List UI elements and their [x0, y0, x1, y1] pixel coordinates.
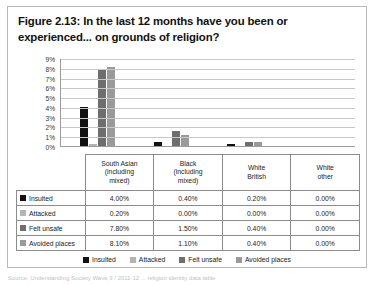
- table-cell: 0.20%: [85, 206, 154, 221]
- bar: [245, 142, 253, 146]
- plot-area: [60, 59, 355, 147]
- page-title: Figure 2.13: In the last 12 months have …: [18, 14, 353, 45]
- legend-label: Avoided places: [245, 256, 291, 263]
- legend-item: Insulted: [83, 256, 116, 263]
- series-swatch-icon: [20, 210, 26, 216]
- legend-swatch-icon: [236, 257, 242, 263]
- bar: [254, 142, 262, 146]
- y-axis-tick-label: 4%: [45, 104, 55, 111]
- table-row: Avoided places8.10%1.10%0.40%0.00%: [17, 236, 360, 251]
- figure-container: Figure 2.13: In the last 12 months have …: [7, 6, 367, 268]
- gridline: [61, 79, 355, 80]
- legend-label: Felt unsafe: [188, 256, 222, 263]
- gridline: [61, 118, 355, 119]
- series-swatch-icon: [20, 240, 26, 246]
- gridline: [61, 59, 355, 60]
- y-axis-tick-label: 1%: [45, 134, 55, 141]
- legend-item: Felt unsafe: [179, 256, 222, 263]
- bar: [227, 144, 235, 146]
- table-cell: 1.50%: [154, 221, 223, 236]
- table-cell: 0.20%: [222, 191, 291, 206]
- table-cell: 8.10%: [85, 236, 154, 251]
- series-swatch-icon: [20, 195, 26, 201]
- table-column-header: Black(includingmixed): [154, 155, 223, 191]
- y-axis-tick-label: 5%: [45, 95, 55, 102]
- gridline: [61, 88, 355, 89]
- data-table: South Asian(includingmixed)Black(includi…: [16, 154, 360, 251]
- table-column-header: South Asian(includingmixed): [85, 155, 154, 191]
- y-axis-tick-label: 3%: [45, 114, 55, 121]
- table-cell: 0.00%: [291, 221, 360, 236]
- table-row-label: Avoided places: [17, 236, 86, 251]
- table-cell: 1.10%: [154, 236, 223, 251]
- legend-label: Insulted: [92, 256, 116, 263]
- table-header-row: South Asian(includingmixed)Black(includi…: [17, 155, 360, 191]
- gridline: [61, 127, 355, 128]
- gridline: [61, 98, 355, 99]
- table-body: Insulted4.00%0.40%0.20%0.00%Attacked0.20…: [17, 191, 360, 251]
- table-row: Insulted4.00%0.40%0.20%0.00%: [17, 191, 360, 206]
- table-row-label: Insulted: [17, 191, 86, 206]
- bar-group: [61, 59, 135, 146]
- gridline: [61, 69, 355, 70]
- gridline: [61, 108, 355, 109]
- table-cell: 0.00%: [291, 236, 360, 251]
- bar: [89, 144, 97, 146]
- legend-swatch-icon: [179, 257, 185, 263]
- source-caption: Source: Understanding Society Wave 3 / 2…: [8, 274, 368, 282]
- legend-item: Avoided places: [236, 256, 291, 263]
- legend-swatch-icon: [130, 257, 136, 263]
- legend-item: Attacked: [130, 256, 165, 263]
- table-corner-cell: [17, 155, 86, 191]
- y-axis-tick-label: 8%: [45, 65, 55, 72]
- table-row: Attacked0.20%0.00%0.00%0.00%: [17, 206, 360, 221]
- table-cell: 4.00%: [85, 191, 154, 206]
- legend-swatch-icon: [83, 257, 89, 263]
- bar: [154, 142, 162, 146]
- chart-legend: InsultedAttackedFelt unsafeAvoided place…: [8, 256, 366, 263]
- legend-label: Attacked: [139, 256, 165, 263]
- bar-chart: 0%1%2%3%4%5%6%7%8%9%: [30, 59, 355, 159]
- bar: [172, 131, 180, 146]
- table-row-label: Attacked: [17, 206, 86, 221]
- bar-group: [208, 59, 282, 146]
- table-cell: 0.40%: [222, 236, 291, 251]
- y-axis-tick-label: 2%: [45, 124, 55, 131]
- table-row: Felt unsafe7.80%1.50%0.40%0.00%: [17, 221, 360, 236]
- bar-group: [282, 59, 356, 146]
- gridline: [61, 137, 355, 138]
- series-swatch-icon: [20, 225, 26, 231]
- bar-groups: [61, 59, 355, 146]
- table-cell: 0.00%: [291, 206, 360, 221]
- table-cell: 0.00%: [154, 206, 223, 221]
- table-column-header: WhiteBritish: [222, 155, 291, 191]
- y-axis-tick-label: 7%: [45, 75, 55, 82]
- table-cell: 7.80%: [85, 221, 154, 236]
- table-cell: 0.00%: [291, 191, 360, 206]
- y-axis: 0%1%2%3%4%5%6%7%8%9%: [30, 59, 58, 147]
- table-cell: 0.00%: [222, 206, 291, 221]
- bar: [80, 107, 88, 146]
- bar-group: [135, 59, 209, 146]
- y-axis-tick-label: 9%: [45, 56, 55, 63]
- table-row-label: Felt unsafe: [17, 221, 86, 236]
- table-column-header: Whiteother: [291, 155, 360, 191]
- table-cell: 0.40%: [154, 191, 223, 206]
- table-cell: 0.40%: [222, 221, 291, 236]
- y-axis-tick-label: 0%: [45, 144, 55, 151]
- y-axis-tick-label: 6%: [45, 85, 55, 92]
